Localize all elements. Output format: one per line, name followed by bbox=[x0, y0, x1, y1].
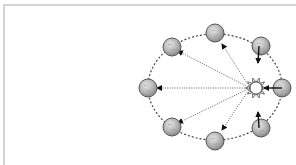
sun-icon bbox=[250, 82, 262, 94]
planet-icon bbox=[206, 132, 224, 150]
planet-top-right bbox=[252, 37, 270, 55]
ray-to-planet-top bbox=[222, 44, 250, 88]
sun-ray-icon bbox=[257, 94, 260, 98]
planet-icon bbox=[163, 38, 181, 56]
planet-bottom bbox=[206, 132, 224, 150]
planet-icon bbox=[252, 37, 270, 55]
sun-ray-icon bbox=[246, 87, 250, 90]
planet-left bbox=[139, 79, 157, 97]
ray-to-planet-top-left bbox=[178, 51, 250, 88]
dotted-rays bbox=[157, 44, 250, 130]
sun-ray-icon bbox=[257, 78, 260, 82]
planet-icon bbox=[252, 119, 270, 137]
planet-bottom-left bbox=[163, 118, 181, 136]
planet-icon bbox=[139, 79, 157, 97]
sun-ray-icon bbox=[253, 94, 256, 98]
arrow-from-planet-top-right bbox=[258, 46, 259, 63]
planet-icon bbox=[163, 118, 181, 136]
orbit-diagram bbox=[0, 0, 296, 165]
arrow-from-planet-bottom-right bbox=[258, 112, 259, 128]
sun bbox=[246, 78, 267, 98]
planet-top-left bbox=[163, 38, 181, 56]
planet-top bbox=[206, 24, 224, 42]
sun-ray-icon bbox=[253, 78, 256, 82]
planet-icon bbox=[206, 24, 224, 42]
planets bbox=[139, 24, 291, 150]
planet-bottom-right bbox=[252, 119, 270, 137]
ray-to-planet-bottom-left bbox=[178, 88, 250, 123]
